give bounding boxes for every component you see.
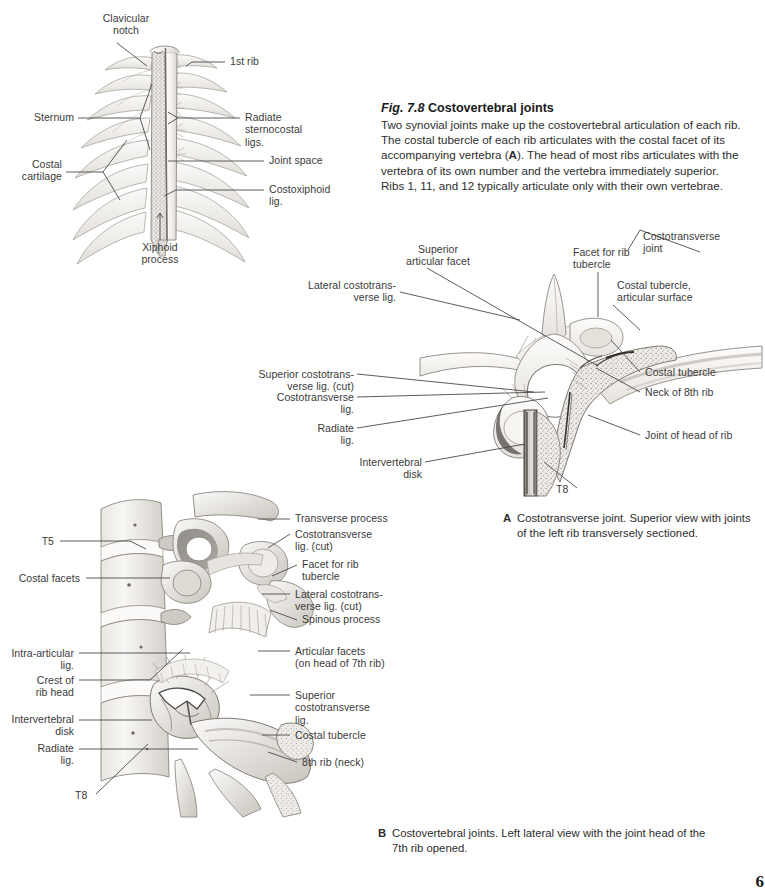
label-b-facet-for-rib-tubercle: Facet for rib tubercle bbox=[302, 558, 398, 583]
label-a-superior-articular-facet: Superior articular facet bbox=[385, 243, 491, 268]
label-sternum: Sternum bbox=[8, 111, 74, 123]
label-b-crest-of-rib-head: Crest of rib head bbox=[0, 674, 74, 699]
label-a-lateral-costotransverse-lig: Lateral costotrans- verse lig. bbox=[272, 279, 396, 304]
label-b-articular-facets: Articular facets (on head of 7th rib) bbox=[295, 645, 425, 670]
caption-bold-a: A bbox=[509, 148, 517, 161]
label-a-joint-of-head-of-rib: Joint of head of rib bbox=[645, 429, 765, 441]
subcaption-b-text: Costovertebral joints. Left lateral view… bbox=[392, 826, 723, 855]
subcaption-b-letter: B bbox=[378, 826, 386, 841]
subcaption-a: A Costotransverse joint. Superior view w… bbox=[503, 511, 753, 540]
figure-number: Fig. 7.8 bbox=[381, 101, 424, 115]
label-a-radiate-lig: Radiate lig. bbox=[268, 422, 354, 447]
label-a-costal-tubercle-articular-surface: Costal tubercle, articular surface bbox=[617, 279, 737, 304]
label-a-t8: T8 bbox=[556, 483, 586, 495]
label-clavicular-notch: Clavicular notch bbox=[86, 12, 166, 37]
label-joint-space: Joint space bbox=[269, 154, 359, 166]
label-b-t5: T5 bbox=[20, 535, 54, 547]
label-a-costotransverse-joint: Costotransverse joint bbox=[643, 230, 753, 255]
sternum-illustration bbox=[55, 40, 275, 275]
figure-caption: Fig. 7.8 Costovertebral joints Two synov… bbox=[381, 101, 744, 193]
label-a-costal-tubercle: Costal tubercle bbox=[645, 366, 755, 378]
label-b-8th-rib-neck: 8th rib (neck) bbox=[302, 756, 402, 768]
label-1st-rib: 1st rib bbox=[230, 55, 300, 67]
label-b-spinous-process: Spinous process bbox=[302, 613, 422, 625]
label-b-intra-articular-lig: Intra-articular lig. bbox=[0, 647, 74, 672]
label-b-radiate-lig: Radiate lig. bbox=[0, 742, 74, 767]
caption-title: Fig. 7.8 Costovertebral joints bbox=[381, 101, 744, 115]
label-b-superior-costotransverse-lig: Superior costotransverse lig. bbox=[295, 689, 405, 726]
label-a-neck-of-8th-rib: Neck of 8th rib bbox=[645, 386, 755, 398]
subcaption-a-text: Costotransverse joint. Superior view wit… bbox=[517, 511, 753, 540]
figure-b-illustration bbox=[95, 487, 325, 822]
subcaption-b: B Costovertebral joints. Left lateral vi… bbox=[378, 826, 723, 855]
label-a-superior-costotransverse-lig-cut: Superior costotrans- verse lig. (cut) bbox=[228, 368, 354, 393]
label-a-intervertebral-disk: Intervertebral disk bbox=[330, 456, 422, 481]
label-b-costal-tubercle: Costal tubercle bbox=[295, 729, 405, 741]
label-b-t8: T8 bbox=[75, 789, 109, 801]
label-b-transverse-process: Transverse process bbox=[295, 512, 425, 524]
label-a-costotransverse-lig: Costotransverse lig. bbox=[240, 391, 354, 416]
label-b-costotransverse-lig-cut: Costotransverse lig. (cut) bbox=[295, 528, 415, 553]
label-costoxiphoid-lig: Costoxiphoid lig. bbox=[269, 183, 359, 208]
label-b-lateral-costotransverse-lig-cut: Lateral costotrans- verse lig. (cut) bbox=[295, 588, 417, 613]
label-b-costal-facets: Costal facets bbox=[0, 572, 80, 584]
subcaption-a-letter: A bbox=[503, 511, 511, 526]
label-xiphoid-process: Xiphoid process bbox=[120, 241, 200, 266]
caption-body: Two synovial joints make up the costover… bbox=[381, 117, 744, 193]
page-number: 6 bbox=[756, 872, 765, 888]
label-b-intervertebral-disk: Intervertebral disk bbox=[0, 713, 74, 738]
caption-title-text: Costovertebral joints bbox=[428, 101, 554, 115]
label-radiate-sternocostal-ligs: Radiate sternocostal ligs. bbox=[245, 111, 335, 148]
label-costal-cartilage: Costal cartilage bbox=[0, 158, 62, 183]
